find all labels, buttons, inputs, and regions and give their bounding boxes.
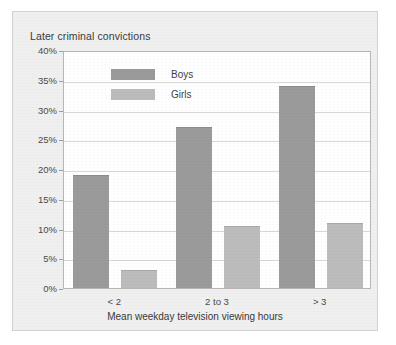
legend-item-girls: Girls (111, 84, 193, 104)
legend-swatch-girls (111, 89, 155, 100)
y-axis-tick-label: 25% (13, 134, 57, 145)
bar-boys-2 (279, 86, 315, 288)
y-axis-tick-label: 15% (13, 194, 57, 205)
y-axis-tick-label: 40% (13, 45, 57, 56)
chart-title: Later criminal convictions (30, 30, 150, 42)
bar-boys-0 (73, 175, 109, 288)
bar-girls-2 (327, 223, 363, 288)
x-axis-tick-label: 2 to 3 (177, 296, 257, 307)
x-axis-tick-label: < 2 (74, 296, 154, 307)
bar-boys-1 (176, 127, 212, 288)
y-axis-tick-label: 10% (13, 224, 57, 235)
y-axis-tick-mark (59, 289, 63, 290)
y-axis-tick-label: 20% (13, 164, 57, 175)
plot-area: Boys Girls (63, 51, 371, 289)
chart-legend: Boys Girls (111, 64, 193, 104)
figure-card: Later criminal convictions 0%5%10%15%20%… (12, 11, 378, 331)
y-axis-tick-label: 5% (13, 253, 57, 264)
x-axis-tick-label: > 3 (280, 296, 360, 307)
legend-item-boys: Boys (111, 64, 193, 84)
legend-swatch-boys (111, 69, 155, 80)
y-axis-tick-label: 30% (13, 105, 57, 116)
legend-label-girls: Girls (171, 89, 192, 100)
y-axis-tick-label: 0% (13, 283, 57, 294)
x-axis-title: Mean weekday television viewing hours (13, 311, 377, 322)
bar-girls-0 (121, 270, 157, 288)
legend-label-boys: Boys (171, 69, 193, 80)
bars-layer (64, 52, 370, 288)
bar-girls-1 (224, 226, 260, 288)
y-axis-tick-label: 35% (13, 75, 57, 86)
chart-figure: Later criminal convictions 0%5%10%15%20%… (0, 0, 396, 345)
